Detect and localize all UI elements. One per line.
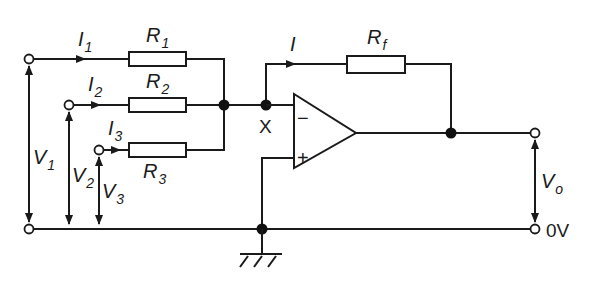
resistor-r1 [129, 52, 186, 66]
voltage-label-v2: V2 [72, 164, 94, 191]
voltage-label-v3: V3 [102, 180, 124, 207]
output-terminal [531, 129, 540, 138]
summing-amplifier-diagram: I1 R1 I2 R2 I3 R3 I Rf X − + [0, 0, 592, 284]
current-label-i: I [290, 33, 296, 55]
input-branch-2: I2 R2 [65, 70, 267, 112]
resistor-r3 [129, 143, 186, 157]
op-amp: − + [262, 94, 356, 229]
resistor-r2 [129, 98, 186, 112]
current-label-i1: I1 [78, 28, 92, 55]
inverting-input-sign: − [297, 107, 309, 129]
current-label-i2: I2 [88, 73, 103, 100]
voltage-arrow-v3: V3 [99, 157, 124, 224]
ground-terminal-left [25, 225, 34, 234]
voltage-arrow-v1: V1 [29, 66, 55, 222]
voltage-arrow-v2: V2 [69, 112, 94, 224]
resistor-label-r3: R3 [143, 160, 166, 187]
input-terminal-2 [65, 101, 74, 110]
input-branch-1: I1 R1 [25, 24, 225, 105]
ground-terminal-right [531, 225, 540, 234]
voltage-label-v1: V1 [33, 146, 55, 173]
summing-junction-dot [219, 100, 230, 111]
current-label-i3: I3 [108, 117, 123, 144]
node-x-label: X [259, 116, 272, 137]
input-terminal-3 [95, 146, 104, 155]
resistor-label-r1: R1 [146, 24, 169, 51]
resistor-label-r2: R2 [146, 70, 169, 97]
noninverting-input-sign: + [297, 147, 309, 169]
resistor-label-rf: Rf [367, 26, 388, 53]
input-terminal-1 [25, 55, 34, 64]
output-junction-dot [446, 128, 457, 139]
ground-label-0v: 0V [546, 220, 570, 241]
voltage-label-vo: Vo [541, 170, 563, 197]
input-branch-3: I3 R3 [95, 105, 225, 187]
ground-icon [240, 229, 282, 267]
voltage-arrow-vo: Vo [535, 140, 563, 222]
resistor-rf [347, 56, 405, 73]
